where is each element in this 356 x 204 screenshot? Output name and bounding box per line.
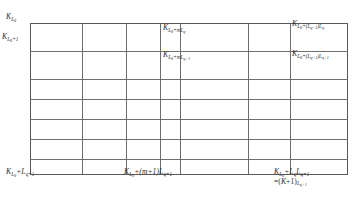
grid-line-horizontal-3 (30, 99, 348, 100)
label-right-top-cell-index: KL0+(Lq−1)Lq (292, 20, 324, 29)
grid-line-horizontal-2 (30, 79, 348, 80)
label-right-second-cell-index: KL0+(Lq−1)Lq+1 (292, 50, 329, 59)
grid-line-horizontal-6 (30, 159, 348, 160)
label-left-second-index: KL0+1 (2, 33, 18, 42)
label-bottom-mid-index: KL0+(m+1)Lq+1 (124, 168, 172, 177)
label-mid-top-cell-index: KL0+mLq (163, 24, 185, 33)
label-mid-second-cell-index: KL0+mLq+1 (163, 51, 190, 60)
lattice-grid (30, 23, 348, 175)
grid-line-horizontal-5 (30, 139, 348, 140)
figure-root: KL0 KL0+1 KL0+mLq KL0+mLq+1 KL0+(Lq−1)Lq… (0, 0, 356, 204)
label-bottom-right-line1: KL0+LqLq+1 (274, 167, 309, 176)
label-top-left-index: KL0 (6, 13, 16, 22)
label-bottom-right-line2: =(K+1)Lq+1 (274, 178, 309, 187)
grid-line-horizontal-4 (30, 119, 348, 120)
label-bottom-right-index: KL0+LqLq+1=(K+1)Lq+1 (274, 168, 309, 186)
label-bottom-left-index: KL0+Lq+1 (6, 168, 34, 177)
